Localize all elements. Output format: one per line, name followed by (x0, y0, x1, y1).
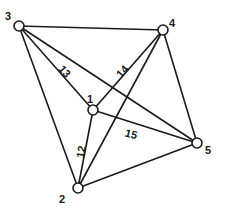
edge-2-5 (78, 143, 197, 188)
node-1-circle-icon (88, 105, 98, 115)
node-4-label: 4 (169, 17, 176, 29)
node-2-label: 2 (59, 193, 65, 205)
edge-weight-label-1-5: 15 (124, 127, 139, 142)
node-3-label: 3 (5, 10, 11, 22)
node-3-circle-icon (14, 21, 24, 31)
node-labels-group: 12345 (5, 10, 211, 205)
edge-weight-label-3-1: 13 (56, 63, 73, 80)
edge-weight-label-4-1: 14 (114, 62, 132, 80)
edge-4-5 (163, 30, 197, 143)
edge-weight-label-1-2: 12 (74, 145, 88, 159)
node-5-label: 5 (205, 144, 211, 156)
edges-group (19, 26, 197, 188)
node-1-label: 1 (87, 93, 93, 105)
edge-3-4 (19, 26, 163, 30)
node-4-circle-icon (158, 25, 168, 35)
nodes-group (14, 21, 202, 193)
node-2-circle-icon (73, 183, 83, 193)
edge-3-5 (19, 26, 197, 143)
edge-1-5 (93, 110, 197, 143)
graph-diagram: 13141215 12345 (0, 0, 227, 210)
node-5-circle-icon (192, 138, 202, 148)
edge-3-2 (19, 26, 78, 188)
